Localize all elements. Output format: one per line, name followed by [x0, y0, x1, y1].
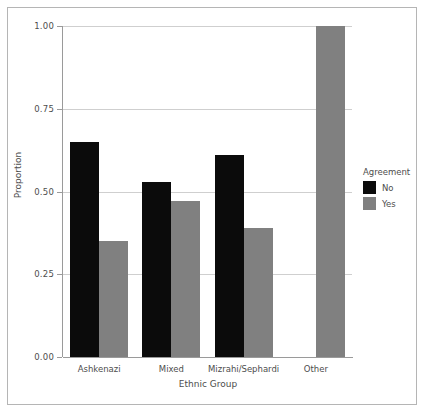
legend-swatch-no	[363, 181, 376, 194]
y-axis-tick-label: 0.00	[34, 352, 54, 362]
legend-item-no[interactable]: No	[363, 181, 419, 194]
gridline	[63, 109, 352, 110]
plot-panel	[63, 26, 352, 357]
x-axis-line	[63, 357, 353, 358]
y-axis-tick-label: 0.25	[34, 269, 54, 279]
y-axis-title: Proportion	[13, 125, 23, 225]
legend-entries: NoYes	[363, 181, 419, 210]
legend-label-yes: Yes	[382, 199, 396, 209]
bar-ashkenazi-yes	[99, 241, 128, 357]
gridline	[63, 26, 352, 27]
legend: Agreement NoYes	[363, 167, 419, 213]
bar-mizrahi-sephardi-no	[215, 155, 244, 357]
x-axis-tick-label: Other	[304, 364, 328, 374]
bar-ashkenazi-no	[70, 142, 99, 357]
bar-mixed-yes	[171, 201, 200, 357]
x-axis-title: Ethnic Group	[63, 379, 353, 389]
x-axis-tick-label: Ashkenazi	[78, 364, 121, 374]
y-axis-tick-label: 0.50	[34, 187, 54, 197]
bar-mixed-no	[142, 182, 171, 357]
y-axis-tick-mark	[57, 357, 62, 358]
y-axis-tick-label: 0.75	[34, 104, 54, 114]
legend-swatch-yes	[363, 197, 376, 210]
y-axis-tick-mark	[57, 109, 62, 110]
chart-figure: 0.000.250.500.751.00 Proportion Ashkenaz…	[0, 0, 425, 413]
legend-label-no: No	[382, 183, 394, 193]
bar-other-yes	[316, 26, 345, 357]
x-axis-tick-label: Mizrahi/Sephardi	[208, 364, 279, 374]
x-axis-tick-label: Mixed	[159, 364, 184, 374]
y-axis-tick-label: 1.00	[34, 21, 54, 31]
y-axis-tick-mark	[57, 26, 62, 27]
y-axis-line	[62, 26, 63, 357]
legend-title: Agreement	[363, 167, 419, 177]
bar-mizrahi-sephardi-yes	[244, 228, 273, 357]
y-axis-tick-mark	[57, 274, 62, 275]
gridline	[63, 192, 352, 193]
y-axis-tick-mark	[57, 192, 62, 193]
legend-item-yes[interactable]: Yes	[363, 197, 419, 210]
y-axis-tick-labels: 0.000.250.500.751.00	[0, 0, 54, 413]
